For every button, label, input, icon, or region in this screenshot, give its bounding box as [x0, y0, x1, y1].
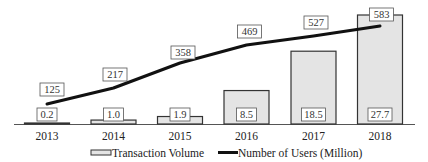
line-value-2016: 469	[242, 26, 258, 37]
line-value-2015: 358	[175, 47, 191, 58]
legend-bar-label: Transaction Volume	[112, 147, 204, 159]
line-value-2017: 527	[308, 17, 324, 28]
bar-value-2014: 1.0	[107, 109, 120, 120]
x-tick-2016: 2016	[235, 130, 258, 142]
bar-value-2015: 1.9	[173, 109, 186, 120]
line-value-2013: 125	[44, 84, 60, 95]
legend-line-label: Number of Users (Million)	[238, 147, 362, 160]
line-value-2018: 583	[374, 9, 390, 20]
chart-container: 0.21.01.98.518.527.7 125217358469527583 …	[0, 0, 428, 162]
bar-value-2018: 27.7	[371, 109, 389, 120]
x-tick-2013: 2013	[36, 130, 59, 142]
bar-value-2016: 8.5	[240, 109, 253, 120]
bar-value-2013: 0.2	[40, 109, 53, 120]
line-value-2014: 217	[107, 69, 123, 80]
x-axis-ticks: 201320142015201620172018	[36, 130, 392, 142]
bar-2013	[25, 123, 70, 124]
x-tick-2015: 2015	[169, 130, 192, 142]
bar-value-2017: 18.5	[304, 109, 322, 120]
legend: Transaction Volume Number of Users (Mill…	[91, 147, 362, 160]
x-tick-2014: 2014	[102, 130, 125, 142]
x-tick-2018: 2018	[369, 130, 392, 142]
bar-value-labels: 0.21.01.98.518.527.7	[37, 108, 392, 121]
legend-bar-swatch	[91, 150, 111, 155]
combo-chart: 0.21.01.98.518.527.7 125217358469527583 …	[0, 0, 428, 162]
x-tick-2017: 2017	[302, 130, 325, 142]
